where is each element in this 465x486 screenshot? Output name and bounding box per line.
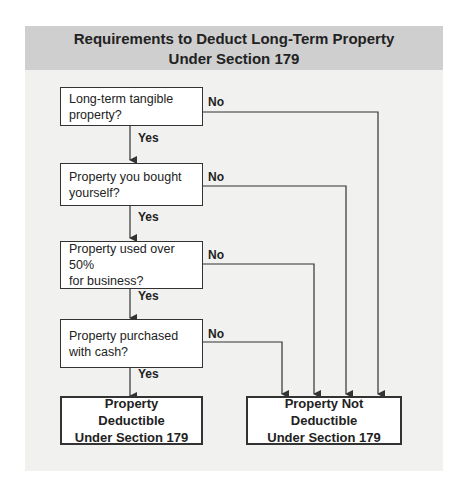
no-label-3: No: [208, 248, 224, 262]
yes-label-1: Yes: [138, 131, 159, 145]
no-label-2: No: [208, 170, 224, 184]
outcome-text: Under Section 179: [256, 429, 392, 446]
no-label-4: No: [208, 327, 224, 341]
outcome-text: Property Deductible: [70, 395, 193, 429]
outcome-text: Property Not Deductible: [256, 395, 392, 429]
yes-label-2: Yes: [138, 210, 159, 224]
question-text: Long-term tangible: [69, 91, 173, 107]
no-label-1: No: [208, 95, 224, 109]
question-text: for business?: [69, 273, 194, 289]
question-box-2: Property you boughtyourself?: [60, 163, 203, 206]
outcome-text: Under Section 179: [70, 429, 193, 446]
question-box-1: Long-term tangibleproperty?: [60, 87, 203, 126]
outcome-deductible: Property DeductibleUnder Section 179: [60, 396, 203, 445]
question-box-4: Property purchasedwith cash?: [60, 319, 203, 368]
yes-label-3: Yes: [138, 289, 159, 303]
question-text: yourself?: [69, 185, 182, 201]
question-text: with cash?: [69, 344, 178, 360]
question-text: Property you bought: [69, 169, 182, 185]
question-text: Property purchased: [69, 328, 178, 344]
question-text: Property used over 50%: [69, 241, 194, 273]
question-box-3: Property used over 50%for business?: [60, 241, 203, 289]
outcome-not-deductible: Property Not DeductibleUnder Section 179: [246, 396, 402, 445]
question-text: property?: [69, 107, 173, 123]
yes-label-4: Yes: [138, 367, 159, 381]
